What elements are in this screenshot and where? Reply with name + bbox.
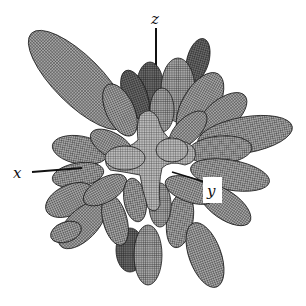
x-axis-label: x bbox=[13, 164, 22, 182]
z-axis-label: z bbox=[150, 10, 159, 28]
y-axis-label: y bbox=[206, 182, 216, 200]
radiation-pattern-figure: z bbox=[0, 0, 306, 306]
